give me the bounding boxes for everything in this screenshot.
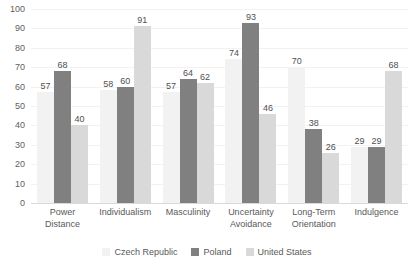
bar[interactable] [368, 147, 385, 203]
legend-item[interactable]: Czech Republic [102, 247, 177, 257]
legend-label: United States [258, 247, 312, 257]
y-axis-tick-label: 90 [15, 23, 25, 33]
bar-value-label: 91 [137, 15, 147, 25]
y-axis-tick-label: 100 [10, 4, 25, 14]
bar-slot: 46 [259, 9, 276, 203]
bar-group: 749346 [219, 9, 282, 203]
y-axis-tick-label: 20 [15, 159, 25, 169]
y-axis-tick-label: 10 [15, 179, 25, 189]
bar-slot: 38 [305, 9, 322, 203]
bar-slot: 62 [197, 9, 214, 203]
x-axis-category-label: UncertaintyAvoidance [219, 207, 282, 241]
bar-slot: 68 [54, 9, 71, 203]
bar-slot: 57 [163, 9, 180, 203]
bar[interactable] [259, 114, 276, 203]
bar[interactable] [288, 67, 305, 203]
bar-slot: 58 [100, 9, 117, 203]
bar-value-label: 57 [40, 81, 50, 91]
x-axis-category-label-line: Indulgence [346, 207, 407, 219]
x-axis-category-label: Indulgence [345, 207, 408, 241]
legend-item[interactable]: United States [246, 247, 312, 257]
bar-slot: 26 [322, 9, 339, 203]
bar[interactable] [117, 87, 134, 203]
y-axis: 1009080706050403020100 [0, 0, 29, 203]
bar-slot: 29 [368, 9, 385, 203]
x-axis-category-label-line: Distance [32, 219, 93, 231]
y-axis-tick-label: 60 [15, 82, 25, 92]
bar[interactable] [180, 79, 197, 203]
x-axis-category-labels: PowerDistanceIndividualismMasculinityUnc… [31, 207, 408, 241]
x-axis-category-label: Long-TermOrientation [282, 207, 345, 241]
x-axis-category-label-line: Individualism [95, 207, 156, 219]
bar-value-label: 40 [74, 114, 84, 124]
x-axis-category-label-line: Avoidance [220, 219, 281, 231]
bar-value-label: 60 [120, 76, 130, 86]
x-axis-category-label: Individualism [94, 207, 157, 241]
x-axis-category-label-line: Power [32, 207, 93, 219]
x-axis-category-label-line: Long-Term [283, 207, 344, 219]
bar-slot: 29 [351, 9, 368, 203]
bar[interactable] [197, 83, 214, 203]
bar-group: 292968 [345, 9, 408, 203]
bar[interactable] [71, 125, 88, 203]
bar-group: 703826 [282, 9, 345, 203]
bar-value-label: 29 [355, 136, 365, 146]
bar-slot: 57 [37, 9, 54, 203]
y-axis-tick-label: 40 [15, 120, 25, 130]
bar-value-label: 64 [183, 68, 193, 78]
y-axis-tick-label: 70 [15, 62, 25, 72]
x-axis-category-label-line: Uncertainty [220, 207, 281, 219]
bar-value-label: 58 [103, 79, 113, 89]
bar-group: 576840 [31, 9, 94, 203]
legend-label: Czech Republic [114, 247, 177, 257]
legend-swatch-icon [246, 248, 254, 256]
bar-slot: 64 [180, 9, 197, 203]
bar-value-label: 68 [389, 60, 399, 70]
bar-value-label: 68 [57, 60, 67, 70]
bar-group: 576462 [157, 9, 220, 203]
x-axis-category-label-line: Masculinity [158, 207, 219, 219]
legend: Czech RepublicPolandUnited States [0, 245, 414, 259]
bar[interactable] [322, 153, 339, 203]
bar[interactable] [163, 92, 180, 203]
bar[interactable] [54, 71, 71, 203]
bar[interactable] [134, 26, 151, 203]
bar[interactable] [225, 59, 242, 203]
legend-label: Poland [203, 247, 231, 257]
bar-value-label: 62 [200, 72, 210, 82]
bar[interactable] [242, 23, 259, 203]
x-axis-category-label-line: Orientation [283, 219, 344, 231]
bar-chart: 1009080706050403020100 57684058609157646… [0, 0, 414, 268]
bar-value-label: 74 [229, 48, 239, 58]
bar-value-label: 46 [263, 103, 273, 113]
bar[interactable] [37, 92, 54, 203]
bar-value-label: 29 [372, 136, 382, 146]
x-axis-category-label: Masculinity [157, 207, 220, 241]
y-axis-tick-label: 30 [15, 140, 25, 150]
bar-value-label: 93 [246, 12, 256, 22]
bar-slot: 60 [117, 9, 134, 203]
bar-value-label: 70 [292, 56, 302, 66]
bar[interactable] [385, 71, 402, 203]
x-axis-category-label: PowerDistance [31, 207, 94, 241]
bar-slot: 40 [71, 9, 88, 203]
bar[interactable] [305, 129, 322, 203]
bar-slot: 74 [225, 9, 242, 203]
legend-swatch-icon [191, 248, 199, 256]
bar-group: 586091 [94, 9, 157, 203]
bar[interactable] [351, 147, 368, 203]
bar-slot: 70 [288, 9, 305, 203]
legend-item[interactable]: Poland [191, 247, 231, 257]
gridline-0 [31, 203, 408, 204]
bar[interactable] [100, 90, 117, 203]
bar-value-label: 38 [309, 118, 319, 128]
bar-value-label: 26 [326, 142, 336, 152]
bar-value-label: 57 [166, 81, 176, 91]
bar-slot: 93 [242, 9, 259, 203]
y-axis-tick-label: 80 [15, 43, 25, 53]
y-axis-tick-label: 0 [20, 198, 25, 208]
y-axis-tick-label: 50 [15, 101, 25, 111]
legend-swatch-icon [102, 248, 110, 256]
bar-slot: 91 [134, 9, 151, 203]
bar-groups: 576840586091576462749346703826292968 [31, 9, 408, 203]
